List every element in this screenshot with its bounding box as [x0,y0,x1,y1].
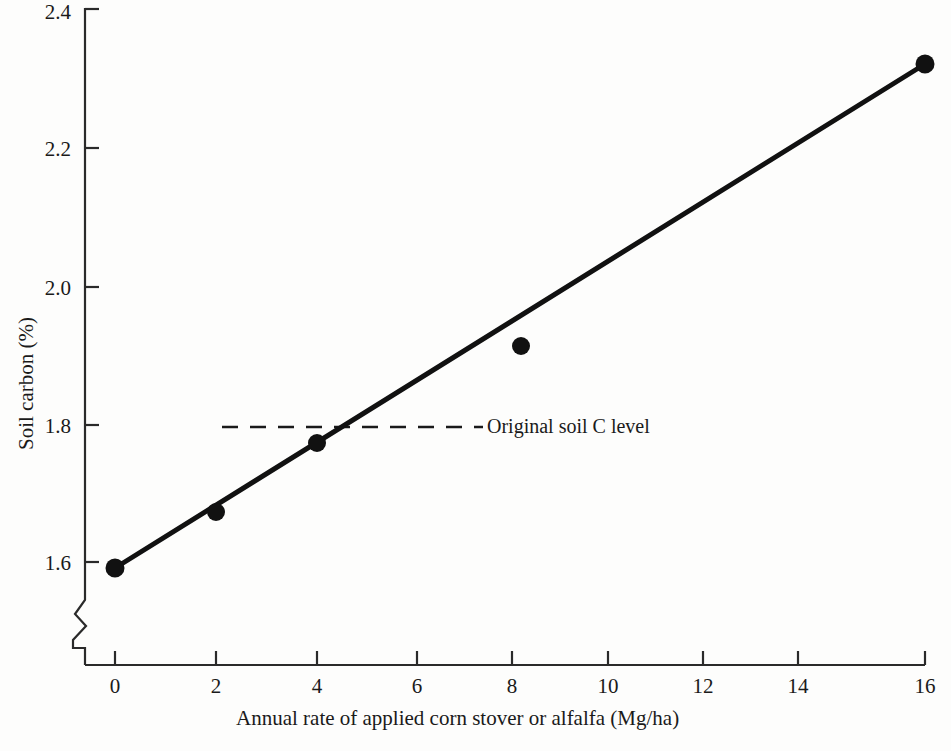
x-tick-label-2: 2 [186,674,246,699]
x-tick-label-16: 16 [895,674,951,699]
y-tick-label-2-0: 2.0 [11,276,71,301]
x-axis-ticks [115,651,925,665]
x-tick-label-4: 4 [287,674,347,699]
figure: 2.4 2.2 2.0 1.8 1.6 0 2 4 6 8 10 12 14 1… [0,0,951,751]
y-axis-title: Soil carbon (%) [14,317,39,450]
y-tick-label-2-2: 2.2 [11,137,71,162]
x-tick-label-8: 8 [482,674,542,699]
data-point-8 [512,337,530,355]
x-tick-label-0: 0 [85,674,145,699]
x-axis-title: Annual rate of applied corn stover or al… [236,706,679,731]
regression-trend-line [115,64,925,568]
y-axis-break-symbol [73,592,86,665]
y-tick-label-2-4: 2.4 [11,0,71,25]
y-axis-ticks [85,148,99,562]
data-point-4 [308,434,326,452]
x-tick-label-12: 12 [673,674,733,699]
x-tick-label-14: 14 [768,674,828,699]
original-soil-c-level-label: Original soil C level [487,415,650,438]
x-tick-label-10: 10 [578,674,638,699]
x-tick-label-6: 6 [387,674,447,699]
data-point-16 [916,55,935,74]
chart-plot-area [0,0,951,751]
y-tick-label-1-6: 1.6 [11,551,71,576]
data-point-0 [106,559,125,578]
data-point-2 [207,503,225,521]
